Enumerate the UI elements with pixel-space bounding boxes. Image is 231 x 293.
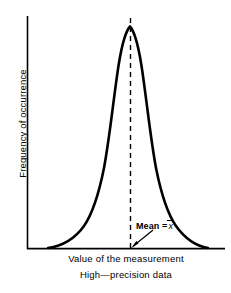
mean-annotation-text: Mean = [136,221,167,231]
mean-annotation: Mean =x [136,221,174,231]
distribution-curve [48,27,208,249]
x-axis-sublabel: High—precision data [27,269,225,280]
plot-canvas [0,0,231,293]
mean-symbol-xbar: x [167,221,174,231]
x-axis-label: Value of the measurement [27,253,225,264]
y-axis-label: Frequency of occurrence [17,44,28,204]
figure-container: Frequency of occurrence Value of the mea… [0,0,231,293]
caption-remnant [0,287,231,293]
mean-arrow-head [131,241,139,248]
